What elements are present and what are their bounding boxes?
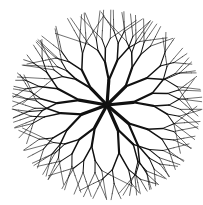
- tree-illustration: [0, 0, 203, 205]
- branching-tree-icon: [0, 0, 203, 205]
